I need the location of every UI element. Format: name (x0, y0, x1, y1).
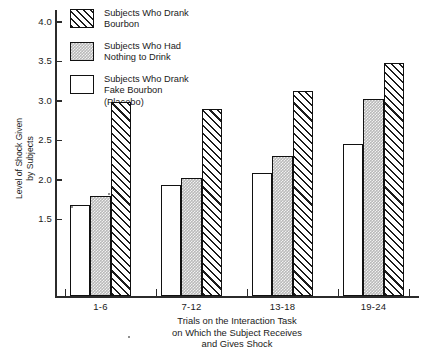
legend-label-placebo-line2: Fake Bourbon (104, 85, 189, 96)
x-axis-group-label: 7-12 (162, 302, 222, 312)
y-axis-title-line2: by Subjects (24, 94, 35, 224)
legend-label-bourbon-line1: Subjects Who Drank (104, 8, 189, 19)
legend-label-bourbon: Subjects Who Drank Bourbon (104, 8, 189, 31)
bar-nothing-13-18 (272, 156, 293, 296)
bar-bourbon-19-24 (384, 63, 405, 296)
y-axis-tick (55, 61, 62, 62)
x-axis-group-label: 19-24 (344, 302, 404, 312)
legend-label-nothing: Subjects Who Had Nothing to Drink (104, 41, 181, 64)
scan-speck (71, 206, 73, 208)
bar-nothing-7-12 (181, 178, 202, 296)
y-axis-title-line1: Level of Shock Given (14, 94, 25, 224)
x-axis-group-label: 13-18 (253, 302, 313, 312)
legend-swatch-bourbon-icon (70, 9, 94, 28)
y-axis-tick-label: 4.0 (16, 17, 52, 27)
bar-chart-figure: Subjects Who Drank Bourbon Subjects Who … (0, 0, 424, 350)
x-axis-tick (409, 289, 410, 297)
y-axis-tick-label-text: 2.0 (22, 175, 52, 185)
x-axis-tick (65, 289, 66, 297)
bar-placebo-19-24 (343, 144, 364, 296)
y-axis-title: Level of Shock Given by Subjects (14, 94, 35, 224)
bar-bourbon-1-6 (111, 102, 132, 296)
bar-bourbon-13-18 (293, 91, 314, 296)
legend-label-nothing-line2: Nothing to Drink (104, 52, 181, 63)
x-axis-title-line2: on Which the Subject Receives (55, 327, 419, 339)
y-axis-tick-label-text: 4.0 (22, 17, 52, 27)
y-axis-tick-label-text: 3.0 (22, 96, 52, 106)
y-axis-tick-label: 3.5 (16, 56, 52, 66)
y-axis-tick (55, 21, 62, 22)
x-axis-tick (338, 289, 339, 297)
y-axis-tick-label-text: 3.5 (22, 56, 52, 66)
y-axis-tick-label: 2.5 (16, 135, 52, 145)
x-axis-tick (247, 289, 248, 297)
legend-swatch-nothing-icon (70, 42, 94, 61)
legend-swatch-placebo-icon (70, 75, 94, 94)
legend-label-nothing-line1: Subjects Who Had (104, 41, 181, 52)
y-axis-tick-label: 3.0 (16, 96, 52, 106)
x-axis-title-line3: and Gives Shock (55, 338, 419, 350)
y-axis-line (55, 10, 57, 297)
scan-speck (128, 336, 130, 338)
y-axis-tick-label-text: 1.5 (22, 214, 52, 224)
bar-placebo-7-12 (161, 185, 182, 296)
bar-nothing-19-24 (363, 99, 384, 296)
legend-label-placebo-line1: Subjects Who Drank (104, 74, 189, 85)
y-axis-tick (55, 179, 62, 180)
x-axis-group-label: 1-6 (71, 302, 131, 312)
bar-bourbon-7-12 (202, 109, 223, 296)
x-axis-title: Trials on the Interaction Task on Which … (55, 315, 419, 350)
y-axis-tick (55, 140, 62, 141)
y-axis-tick (55, 219, 62, 220)
bar-nothing-1-6 (90, 196, 111, 296)
scan-speck (108, 193, 110, 195)
bar-placebo-13-18 (252, 173, 273, 296)
y-axis-tick-label: 1.5 (16, 214, 52, 224)
x-axis-line (55, 296, 419, 298)
x-axis-tick (156, 289, 157, 297)
x-axis-title-line1: Trials on the Interaction Task (55, 315, 419, 327)
bar-placebo-1-6 (70, 205, 91, 296)
legend-label-bourbon-line2: Bourbon (104, 19, 189, 30)
y-axis-tick-label-text: 2.5 (22, 135, 52, 145)
y-axis-tick (55, 100, 62, 101)
y-axis-tick-label: 2.0 (16, 175, 52, 185)
